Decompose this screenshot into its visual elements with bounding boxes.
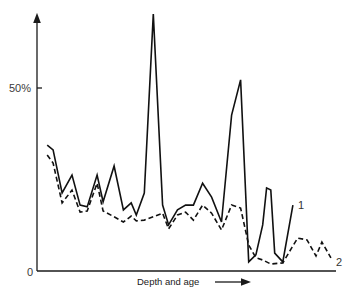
y-tick-label-0: 0 <box>27 266 33 278</box>
series-label-2: 2 <box>336 256 342 268</box>
chart-canvas: 50% 0 Depth and age 12 <box>0 0 349 297</box>
y-tick-label-50: 50% <box>9 82 31 94</box>
series-label-1: 1 <box>298 199 304 211</box>
series-line-1 <box>47 14 293 262</box>
series-line-2 <box>47 155 331 264</box>
x-axis-label: Depth and age <box>137 276 199 287</box>
series-layer: 12 <box>47 14 342 268</box>
